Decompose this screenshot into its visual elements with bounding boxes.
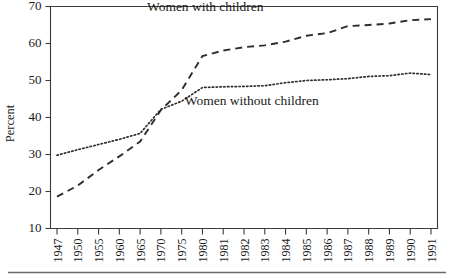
- x-axis-tick-label: 1984: [279, 239, 293, 263]
- x-axis-tick-label: 1991: [425, 239, 439, 263]
- x-axis-tick-label: 1980: [196, 239, 210, 263]
- line-chart: 10203040506070 1947195019551960196519701…: [0, 0, 453, 279]
- x-axis-tick-label: 1988: [362, 239, 376, 263]
- y-axis-tick-label: 20: [29, 183, 42, 198]
- series-line-2: [57, 73, 431, 155]
- x-axis-tick-label: 1947: [51, 239, 65, 263]
- series-annotation-2: Women without children: [185, 93, 319, 108]
- x-axis-tick-label: 1990: [404, 239, 418, 263]
- y-axis-tick-label: 10: [29, 220, 42, 235]
- y-axis-tick-label: 40: [29, 109, 42, 124]
- x-axis-tick-label: 1950: [71, 239, 85, 263]
- x-axis-tick-label: 1970: [154, 239, 168, 263]
- plot-frame: [51, 7, 438, 229]
- x-axis-tick-label: 1981: [217, 239, 231, 263]
- y-axis-tick-label: 70: [29, 0, 42, 13]
- y-axis-tick-label: 50: [29, 72, 42, 87]
- y-axis-ticks: [46, 7, 51, 229]
- y-axis-title: Percent: [3, 104, 17, 142]
- x-axis-tick-label: 1987: [341, 239, 355, 263]
- x-axis-tick-labels: 1947195019551960196519701975198019811982…: [51, 239, 439, 263]
- x-axis-tick-label: 1955: [92, 239, 106, 263]
- series-annotations: Women with childrenWomen without childre…: [147, 0, 319, 108]
- x-axis-ticks: [57, 229, 431, 235]
- x-axis-tick-label: 1985: [300, 239, 314, 263]
- series-annotation-1: Women with children: [147, 0, 264, 14]
- plot-border: [51, 7, 438, 229]
- x-axis-tick-label: 1982: [238, 239, 252, 263]
- x-axis-tick-label: 1960: [113, 239, 127, 263]
- x-axis-tick-label: 1983: [258, 239, 272, 263]
- x-axis-tick-label: 1975: [175, 239, 189, 263]
- y-axis-tick-labels: 10203040506070: [29, 0, 42, 235]
- x-axis-tick-label: 1989: [383, 239, 397, 263]
- chart-container: 10203040506070 1947195019551960196519701…: [0, 0, 453, 279]
- y-axis-title-text: Percent: [3, 104, 17, 142]
- y-axis-tick-label: 60: [29, 35, 42, 50]
- x-axis-tick-label: 1986: [321, 239, 335, 263]
- y-axis-tick-label: 30: [29, 146, 42, 161]
- x-axis-tick-label: 1965: [134, 239, 148, 263]
